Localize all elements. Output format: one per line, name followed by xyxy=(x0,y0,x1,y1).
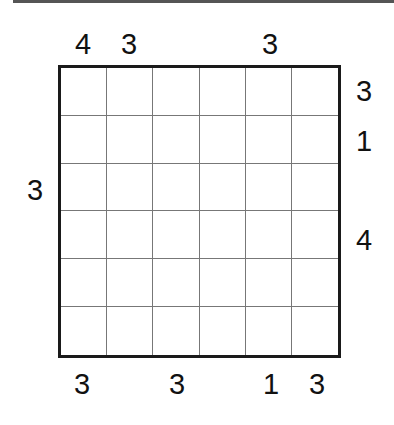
grid-cell-r1c3[interactable] xyxy=(153,68,199,116)
grid-cell-r1c6[interactable] xyxy=(292,68,338,116)
grid-cell-r6c2[interactable] xyxy=(107,307,153,355)
grid-cell-r2c2[interactable] xyxy=(107,116,153,164)
grid-cell-r6c3[interactable] xyxy=(153,307,199,355)
clue-left-row3: 3 xyxy=(20,176,50,205)
grid-cell-r4c2[interactable] xyxy=(107,211,153,259)
grid-cell-r5c2[interactable] xyxy=(107,259,153,307)
clue-right-row2: 1 xyxy=(349,127,379,156)
grid-cell-r2c5[interactable] xyxy=(246,116,292,164)
grid-cell-r1c2[interactable] xyxy=(107,68,153,116)
grid-cell-r1c5[interactable] xyxy=(246,68,292,116)
clue-top-col5: 3 xyxy=(255,30,285,59)
clue-bottom-col1: 3 xyxy=(67,370,97,399)
grid-cell-r5c5[interactable] xyxy=(246,259,292,307)
clue-bottom-col5: 1 xyxy=(256,370,286,399)
grid-cell-r4c1[interactable] xyxy=(61,211,107,259)
grid-cell-r5c6[interactable] xyxy=(292,259,338,307)
grid-cell-r5c3[interactable] xyxy=(153,259,199,307)
grid-cell-r6c5[interactable] xyxy=(246,307,292,355)
grid-cell-r3c5[interactable] xyxy=(246,164,292,212)
grid-cell-r3c4[interactable] xyxy=(200,164,246,212)
grid-cell-r1c1[interactable] xyxy=(61,68,107,116)
grid-cell-r2c1[interactable] xyxy=(61,116,107,164)
grid-cell-r6c6[interactable] xyxy=(292,307,338,355)
grid-cell-r1c4[interactable] xyxy=(200,68,246,116)
grid-cell-r4c3[interactable] xyxy=(153,211,199,259)
clue-right-row1: 3 xyxy=(349,77,379,106)
grid-cell-r4c6[interactable] xyxy=(292,211,338,259)
grid-cell-r2c6[interactable] xyxy=(292,116,338,164)
grid-cell-r3c1[interactable] xyxy=(61,164,107,212)
grid-cell-r5c1[interactable] xyxy=(61,259,107,307)
grid-cell-r2c3[interactable] xyxy=(153,116,199,164)
top-divider-line xyxy=(13,0,394,3)
clue-top-col2: 3 xyxy=(114,30,144,59)
clue-bottom-col6: 3 xyxy=(302,370,332,399)
clue-top-col1: 4 xyxy=(68,30,98,59)
puzzle-grid xyxy=(58,65,341,358)
grid-cell-r3c2[interactable] xyxy=(107,164,153,212)
grid-cell-r3c3[interactable] xyxy=(153,164,199,212)
grid-cell-r2c4[interactable] xyxy=(200,116,246,164)
grid-cell-r6c4[interactable] xyxy=(200,307,246,355)
grid-cell-r3c6[interactable] xyxy=(292,164,338,212)
grid-cell-r4c4[interactable] xyxy=(200,211,246,259)
grid-cell-r6c1[interactable] xyxy=(61,307,107,355)
grid-cell-r4c5[interactable] xyxy=(246,211,292,259)
clue-bottom-col3: 3 xyxy=(162,370,192,399)
grid-cell-r5c4[interactable] xyxy=(200,259,246,307)
clue-right-row4: 4 xyxy=(349,226,379,255)
